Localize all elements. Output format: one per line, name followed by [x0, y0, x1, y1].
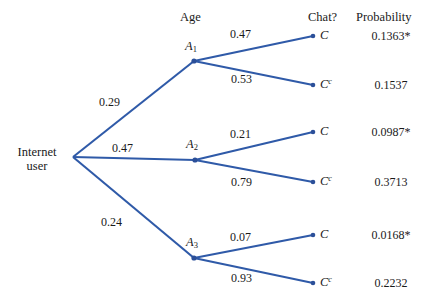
node-dot-a2	[192, 157, 197, 162]
edge-label-prior-a1: 0.29	[99, 96, 120, 108]
leaf-a2-cc-sup: c	[328, 174, 332, 183]
edge-a3-cc	[194, 258, 313, 283]
node-dot-a1	[191, 58, 196, 63]
edge-root-a2	[73, 157, 195, 160]
leaf-dot-a1-c	[311, 34, 316, 39]
leaf-label-a1-c: C	[320, 29, 328, 42]
edge-label-a1-c: 0.47	[230, 28, 251, 40]
outcome-prob-a1-cc: 0.1537	[356, 79, 426, 91]
leaf-label-a3-c: C	[320, 228, 328, 241]
leaf-a1-c-letter: C	[320, 28, 328, 42]
leaf-a3-cc-sup: c	[328, 275, 332, 284]
column-header-age: Age	[180, 11, 201, 24]
outcome-prob-a2-cc: 0.3713	[356, 176, 426, 188]
outcome-prob-a3-cc: 0.2232	[356, 277, 426, 289]
leaf-dot-a1-cc	[311, 83, 316, 88]
column-header-chat: Chat?	[308, 11, 337, 24]
edge-label-a2-cc: 0.79	[231, 176, 252, 188]
edge-root-a3	[73, 157, 194, 258]
edge-a2-cc	[195, 160, 313, 182]
root-node-label: Internet user	[8, 145, 66, 174]
node-a1-subscript: 1	[193, 44, 197, 54]
edge-label-prior-a3: 0.24	[101, 216, 122, 228]
leaf-dot-a3-cc	[311, 281, 316, 286]
node-a2-letter: A	[186, 137, 194, 151]
edge-label-prior-a2: 0.47	[112, 142, 133, 154]
edge-a1-cc	[194, 61, 313, 85]
outcome-prob-a1-c: 0.1363*	[356, 30, 426, 42]
node-a3-letter: A	[186, 235, 194, 249]
edge-label-a2-c: 0.21	[230, 128, 251, 140]
leaf-label-a3-cc: Cc	[320, 276, 332, 289]
leaf-dot-a2-c	[311, 130, 316, 135]
column-header-probability: Probability	[356, 11, 412, 24]
node-a2-subscript: 2	[194, 142, 198, 152]
probability-tree-diagram: Age Chat? Probability Internet user 0.29…	[0, 0, 436, 305]
outcome-prob-a2-c: 0.0987*	[356, 126, 426, 138]
edge-label-a3-cc: 0.93	[231, 272, 252, 284]
root-label-line2: user	[8, 159, 66, 173]
edge-label-a1-cc: 0.53	[231, 73, 252, 85]
edge-a1-c	[194, 36, 313, 61]
leaf-label-a2-cc: Cc	[320, 175, 332, 188]
node-label-a2: A2	[186, 138, 198, 151]
node-label-a1: A1	[185, 40, 197, 53]
leaf-a3-c-letter: C	[320, 227, 328, 241]
leaf-label-a1-cc: Cc	[320, 78, 332, 91]
leaf-label-a2-c: C	[320, 125, 328, 138]
node-a3-subscript: 3	[194, 240, 198, 250]
node-a1-letter: A	[185, 39, 193, 53]
edge-label-a3-c: 0.07	[230, 231, 251, 243]
root-label-line1: Internet	[8, 145, 66, 159]
leaf-dot-a2-cc	[311, 180, 316, 185]
edge-a3-c	[194, 235, 313, 258]
outcome-prob-a3-c: 0.0168*	[356, 229, 426, 241]
node-dot-a3	[191, 255, 196, 260]
node-label-a3: A3	[186, 236, 198, 249]
leaf-dot-a3-c	[311, 233, 316, 238]
leaf-a2-c-letter: C	[320, 124, 328, 138]
leaf-a1-cc-sup: c	[328, 77, 332, 86]
edge-a2-c	[195, 132, 313, 160]
edge-root-a1	[73, 61, 194, 157]
